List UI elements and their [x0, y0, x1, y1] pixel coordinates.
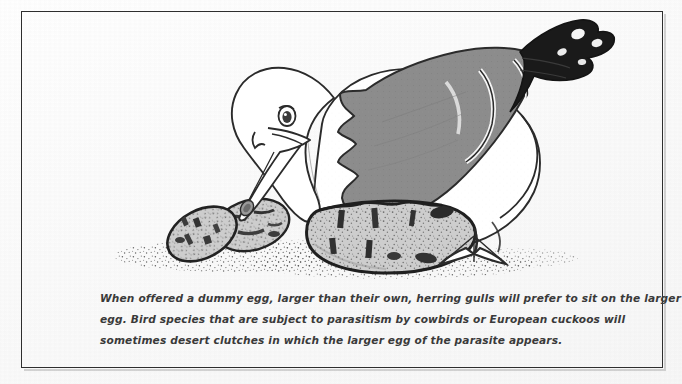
caption-line: sometimes desert clutches in which the l…: [100, 330, 620, 351]
gull-eye: [279, 106, 296, 126]
gull-illustration-svg: [22, 12, 662, 280]
caption-line: egg. Bird species that are subject to pa…: [100, 309, 620, 330]
gull-illustration: [22, 12, 662, 280]
figure-page: When offered a dummy egg, larger than th…: [0, 0, 682, 384]
figure-caption: When offered a dummy egg, larger than th…: [100, 288, 620, 351]
caption-line: When offered a dummy egg, larger than th…: [100, 288, 620, 309]
